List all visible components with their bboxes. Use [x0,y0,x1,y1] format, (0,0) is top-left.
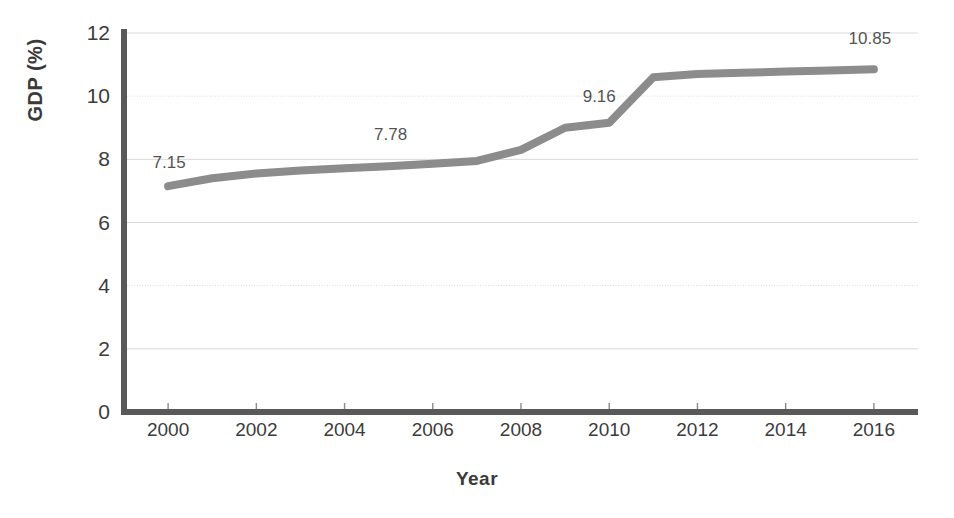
gdp-line-chart: GDP (%) 024681012 2000200220042006200820… [0,0,954,518]
x-tick-label: 2006 [412,419,454,441]
data-point-label: 7.78 [374,125,407,145]
y-tick-label: 0 [70,400,110,424]
y-tick-label: 6 [70,211,110,235]
y-tick-label: 12 [70,21,110,45]
x-axis-title: Year [0,468,954,490]
y-tick-label: 4 [70,274,110,298]
x-tick-label: 2014 [765,419,807,441]
x-tick-label: 2000 [147,419,189,441]
x-tick-label: 2004 [323,419,365,441]
x-tick-label: 2010 [588,419,630,441]
data-point-label: 9.16 [583,87,616,107]
x-tick-label: 2012 [676,419,718,441]
x-tick-label: 2008 [500,419,542,441]
y-tick-label: 10 [70,84,110,108]
x-tick-label: 2016 [853,419,895,441]
y-axis-ticks: 024681012 [62,0,110,518]
x-tick-label: 2002 [235,419,277,441]
y-tick-label: 8 [70,147,110,171]
y-tick-label: 2 [70,337,110,361]
plot-area [0,0,954,518]
data-point-label: 10.85 [849,29,892,49]
data-point-label: 7.15 [153,153,186,173]
